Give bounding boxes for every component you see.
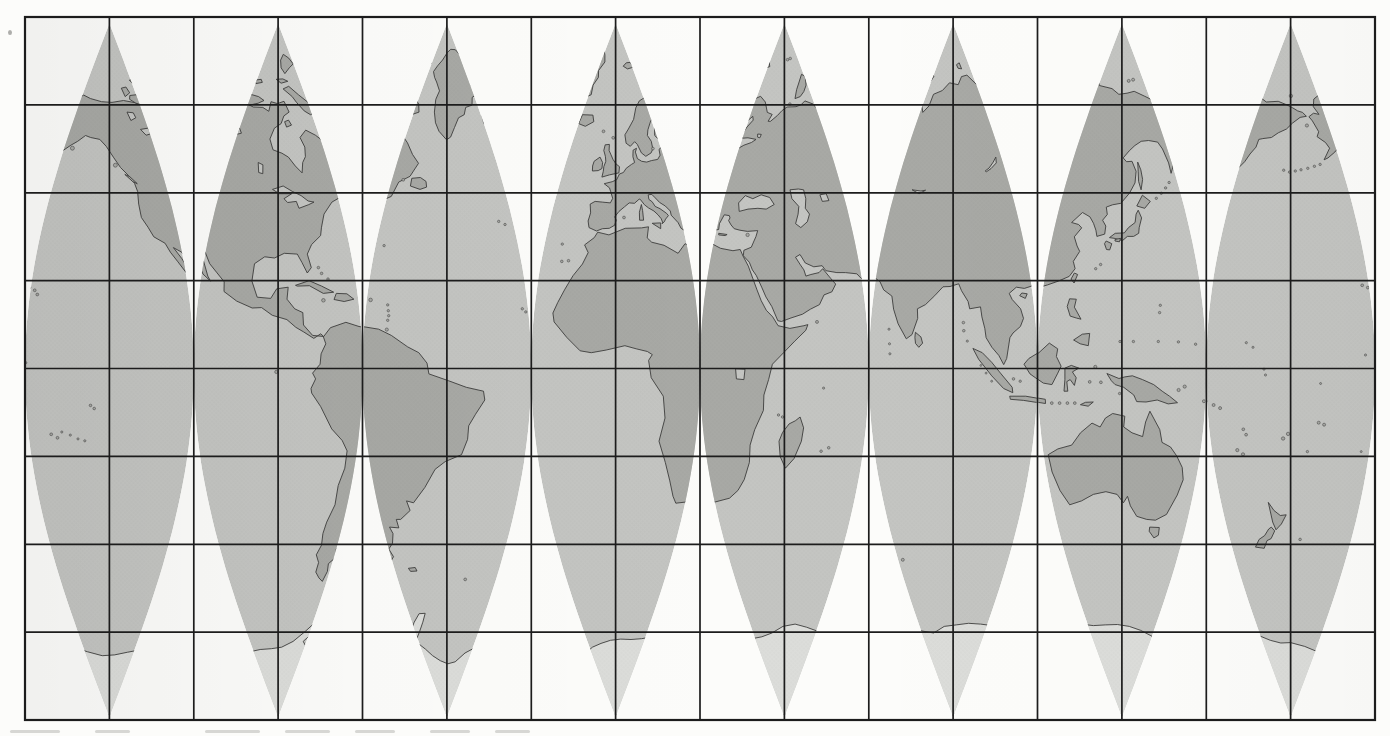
scan-smudge xyxy=(285,730,330,733)
scan-smudge xyxy=(10,730,60,733)
scan-smudge xyxy=(430,730,470,733)
scanned-atlas-page xyxy=(0,0,1390,736)
scan-speck xyxy=(8,30,12,35)
scan-smudge xyxy=(205,730,260,733)
scan-smudge xyxy=(95,730,130,733)
scan-smudge xyxy=(355,730,395,733)
scan-smudge xyxy=(495,730,530,733)
world-map-gores xyxy=(0,0,1390,736)
